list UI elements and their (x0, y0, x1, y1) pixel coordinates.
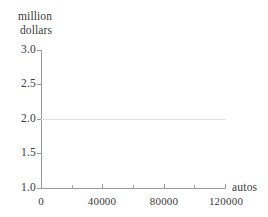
chart-canvas: million dollars 3.0 2.5 2.0 1.5 1.0 0 40… (0, 0, 268, 217)
y-axis-title-line-2: dollars (0, 24, 52, 38)
y-tick-label-1-5: 1.5 (0, 147, 36, 159)
y-axis-title: million dollars (0, 10, 52, 37)
y-axis-title-line-1: million (0, 10, 52, 24)
x-tick-mark-80000 (164, 184, 165, 189)
x-tick-mark-60000 (133, 185, 134, 189)
x-tick-label-0: 0 (38, 196, 44, 207)
x-tick-label-120000: 120000 (209, 196, 243, 207)
x-tick-label-80000: 80000 (150, 196, 179, 207)
y-tick-mark-2-5 (37, 84, 42, 85)
x-tick-mark-20000 (72, 185, 73, 189)
x-tick-mark-100000 (194, 185, 195, 189)
data-series-cost (41, 119, 226, 120)
y-tick-mark-3-0 (37, 50, 42, 51)
x-axis-title: autos (232, 182, 257, 194)
y-tick-label-1-0: 1.0 (0, 182, 36, 194)
x-tick-mark-0 (41, 184, 42, 189)
x-tick-mark-40000 (102, 184, 103, 189)
y-tick-label-3-0: 3.0 (0, 44, 36, 56)
y-tick-label-2-0: 2.0 (0, 113, 36, 125)
y-tick-mark-1-5 (37, 153, 42, 154)
x-tick-label-40000: 40000 (88, 196, 117, 207)
y-tick-label-2-5: 2.5 (0, 78, 36, 90)
x-tick-mark-120000 (225, 184, 226, 189)
